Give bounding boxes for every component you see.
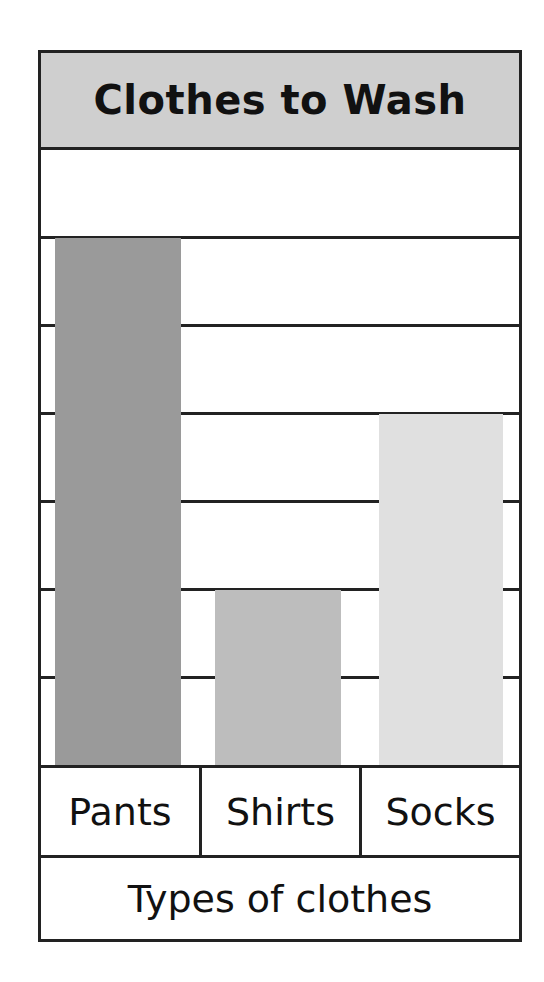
chart-title: Clothes to Wash [93,77,466,123]
chart-frame: Clothes to Wash Pants Shirts Socks Types… [38,50,522,942]
category-label-pants: Pants [41,768,199,855]
plot-area [41,150,519,765]
chart-title-band: Clothes to Wash [41,53,519,150]
bar-pants [55,238,181,765]
bar-shirts [215,590,341,765]
bar-socks [379,414,503,765]
category-label-shirts: Shirts [199,768,359,855]
category-labels-row: Pants Shirts Socks [41,765,519,858]
category-label-socks: Socks [359,768,519,855]
x-axis-title: Types of clothes [41,858,519,939]
